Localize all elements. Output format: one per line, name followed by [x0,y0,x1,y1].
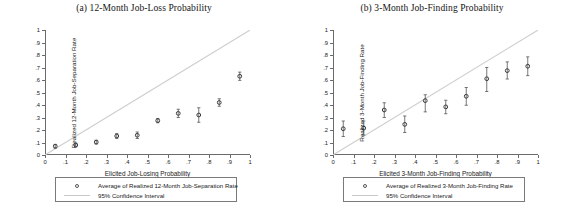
y-tick-label: .7 [35,65,40,71]
y-tick-mark [42,118,45,119]
panel-a-plot-area: Realized 12-Month Job-Separation Rate El… [45,30,250,155]
x-tick-label: .4 [125,159,130,165]
y-tick-mark [42,93,45,94]
x-tick-mark [86,155,87,158]
panel-b-plot-area: Realized 3-Month Job-Finding Rate Elicit… [333,30,538,155]
y-tick-label: .4 [323,102,328,108]
x-tick-mark [477,155,478,158]
x-tick-label: .5 [433,159,438,165]
x-tick-mark [395,155,396,158]
y-tick-label: .4 [35,102,40,108]
x-tick-label: .9 [515,159,520,165]
y-tick-label: .9 [323,40,328,46]
y-tick-mark [330,143,333,144]
y-tick-mark [330,68,333,69]
panel-a-legend-item-ci: 95% Confidence Interval [56,190,238,201]
x-tick-mark [518,155,519,158]
y-tick-label: .6 [323,77,328,83]
y-tick-mark [42,105,45,106]
y-tick-label: .1 [35,140,40,146]
y-tick-label: 1 [325,27,328,33]
x-tick-label: .8 [207,159,212,165]
y-tick-mark [42,43,45,44]
x-tick-mark [127,155,128,158]
x-tick-mark [354,155,355,158]
y-tick-label: .9 [35,40,40,46]
x-tick-mark [230,155,231,158]
y-tick-mark [42,80,45,81]
x-tick-label: .1 [63,159,68,165]
x-tick-mark [107,155,108,158]
x-tick-label: .5 [145,159,150,165]
y-tick-mark [42,155,45,156]
panel-a-title: (a) 12-Month Job-Loss Probability [0,3,288,13]
y-tick-label: .1 [323,140,328,146]
y-tick-mark [330,93,333,94]
y-tick-mark [42,30,45,31]
x-tick-mark [436,155,437,158]
x-tick-mark [497,155,498,158]
y-tick-label: .2 [323,127,328,133]
y-tick-label: .2 [35,127,40,133]
panel-b-x-axis-title: Elicited 3-Month Job-Finding Probability [333,170,538,177]
x-tick-label: .6 [166,159,171,165]
y-tick-label: .8 [323,52,328,58]
circle-marker-icon [344,184,386,188]
x-tick-label: 1 [536,159,539,165]
x-tick-label: 1 [248,159,251,165]
x-tick-label: 0 [43,159,46,165]
y-tick-mark [330,105,333,106]
panel-b-y-axis-title: Realized 3-Month Job-Finding Rate [358,30,365,155]
x-tick-label: 0 [331,159,334,165]
x-tick-mark [148,155,149,158]
y-tick-label: 0 [325,152,328,158]
y-tick-mark [42,55,45,56]
x-tick-mark [189,155,190,158]
panel-b-legend-item-ci: 95% Confidence Interval [344,190,526,201]
y-tick-label: .3 [323,115,328,121]
x-tick-mark [209,155,210,158]
panel-a-x-axis-title: Elicited Job-Losing Probability [45,170,250,177]
y-tick-label: .5 [323,90,328,96]
panel-b: (b) 3-Month Job-Finding Probability Real… [288,0,576,212]
y-tick-mark [42,130,45,131]
y-tick-label: .3 [35,115,40,121]
circle-marker-icon [56,184,98,188]
x-tick-mark [415,155,416,158]
y-tick-mark [42,68,45,69]
panel-a-y-axis-title: Realized 12-Month Job-Separation Rate [70,30,77,155]
x-tick-label: .2 [372,159,377,165]
y-tick-label: .8 [35,52,40,58]
y-tick-label: .5 [35,90,40,96]
x-tick-label: .6 [454,159,459,165]
x-tick-label: .4 [413,159,418,165]
y-tick-label: 0 [37,152,40,158]
two-panel-figure: (a) 12-Month Job-Loss Probability Realiz… [0,0,576,212]
x-tick-mark [45,155,46,158]
x-tick-mark [333,155,334,158]
x-tick-label: .1 [351,159,356,165]
x-tick-mark [374,155,375,158]
y-tick-label: 1 [37,27,40,33]
y-tick-mark [330,130,333,131]
x-tick-mark [456,155,457,158]
panel-a-legend: Average of Realized 12-Month Job-Separat… [55,177,237,202]
x-tick-label: .7 [186,159,191,165]
x-tick-mark [66,155,67,158]
y-tick-mark [330,55,333,56]
line-marker-icon [56,195,98,196]
panel-a-legend-label-average: Average of Realized 12-Month Job-Separat… [98,182,238,189]
y-tick-mark [330,80,333,81]
y-tick-label: .6 [35,77,40,83]
x-tick-label: .2 [84,159,89,165]
x-tick-label: .9 [227,159,232,165]
panel-b-legend-label-average: Average of Realized 3-Month Job-Finding … [386,182,513,189]
x-tick-label: .8 [495,159,500,165]
y-tick-label: .7 [323,65,328,71]
y-tick-mark [330,30,333,31]
x-tick-label: .3 [104,159,109,165]
panel-a: (a) 12-Month Job-Loss Probability Realiz… [0,0,288,212]
x-tick-label: .7 [474,159,479,165]
line-marker-icon [344,195,386,196]
y-tick-mark [330,155,333,156]
